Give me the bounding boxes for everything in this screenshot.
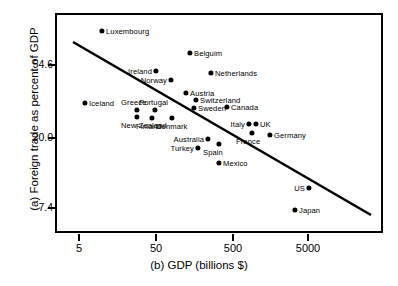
x-tick-mark	[78, 234, 80, 241]
data-point-label: Spain	[203, 148, 223, 157]
data-point-label: Japan	[299, 206, 320, 215]
x-tick-mark	[155, 234, 157, 241]
data-point-label: Belguim	[194, 49, 222, 58]
data-point-label: Norway	[141, 76, 167, 85]
data-point-label: Netherlands	[215, 69, 257, 78]
data-point-label: Germany	[274, 131, 306, 140]
data-point-label: UK	[260, 120, 271, 129]
data-point-label: Italy	[231, 120, 245, 129]
data-point-label: Sweden	[198, 104, 226, 113]
data-point-label: Luxembourg	[106, 27, 149, 36]
plot-area	[55, 13, 383, 233]
y-axis-title: (a) Foreign trade as percent of GDP	[28, 0, 40, 239]
x-tick-label: 50	[150, 242, 162, 254]
data-point-label: Turkey	[170, 144, 194, 153]
x-axis-title: (b) GDP (billions $)	[0, 259, 398, 271]
chart-page: 54.620.07.4 5505005000 (a) Foreign trade…	[0, 0, 398, 286]
data-point-label: Mexico	[223, 159, 248, 168]
x-tick-mark	[232, 234, 234, 241]
data-point-label: US	[294, 184, 305, 193]
data-point-label: Denmark	[156, 122, 188, 131]
data-point-label: Australia	[174, 135, 204, 144]
data-point-label: Canada	[231, 103, 258, 112]
data-point-label: Ireland	[128, 67, 152, 76]
data-point-label: Iceland	[89, 99, 114, 108]
x-tick-label: 500	[224, 242, 242, 254]
data-point-label: Portugal	[139, 98, 168, 107]
y-tick-label: 7.4	[38, 201, 53, 213]
x-tick-label: 5	[76, 242, 82, 254]
data-point-label: France	[236, 137, 260, 146]
x-tick-mark	[307, 234, 309, 241]
x-tick-label: 5000	[296, 242, 320, 254]
